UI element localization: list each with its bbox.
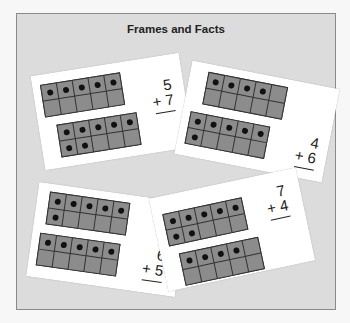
empty-cell [266, 101, 284, 119]
empty-cell [248, 140, 266, 158]
sum-line [142, 279, 162, 283]
counter-dot-cell [58, 123, 75, 140]
counter-dot-cell [65, 195, 82, 212]
empty-cell [110, 217, 127, 234]
counter-dot-cell [73, 121, 90, 138]
empty-cell [201, 131, 219, 149]
counter-dot-cell [73, 78, 90, 95]
ten-frame-top [46, 192, 131, 236]
counter-dot-cell [60, 139, 77, 156]
panel-title: Frames and Facts [17, 23, 335, 35]
counter-dot-cell [204, 115, 222, 133]
empty-cell [215, 260, 233, 278]
empty-cell [37, 250, 54, 267]
counter-dot-cell [81, 197, 98, 214]
empty-cell [229, 214, 247, 232]
empty-cell [235, 95, 253, 113]
empty-cell [230, 257, 248, 275]
counter-dot-cell [104, 73, 121, 90]
counter-dot-cell [112, 202, 129, 219]
empty-cell [100, 259, 117, 276]
empty-cell [62, 211, 79, 228]
sum-line [294, 166, 314, 171]
sum-line [156, 110, 176, 114]
counter-dot-cell [105, 116, 122, 133]
counter-dot-cell [254, 82, 272, 100]
addend-2: + 7 [143, 91, 175, 111]
empty-cell [84, 256, 101, 273]
empty-cell [203, 89, 221, 107]
counter-dot-cell [207, 73, 225, 91]
counter-dot-cell [89, 76, 106, 93]
counter-dot-cell [167, 227, 185, 245]
counter-dot-cell [71, 238, 88, 255]
addition-fact: 5 + 7 [141, 76, 176, 115]
counter-dot-cell [96, 199, 113, 216]
counter-dot-cell [39, 234, 56, 251]
empty-cell [199, 264, 217, 282]
empty-cell [217, 134, 235, 152]
empty-cell [246, 254, 264, 272]
counter-dot-cell [47, 209, 64, 226]
counter-dot-cell [220, 118, 238, 136]
counter-dot-cell [76, 137, 93, 154]
fact-card-2: 4 + 6 [174, 61, 339, 183]
empty-cell [251, 98, 269, 116]
counter-dot-cell [186, 128, 204, 146]
empty-cell [44, 99, 61, 116]
empty-cell [59, 97, 76, 114]
empty-cell [107, 132, 124, 149]
empty-cell [78, 213, 95, 230]
ten-frame-top [40, 72, 125, 117]
counter-dot-cell [121, 113, 138, 130]
empty-cell [107, 89, 124, 106]
empty-cell [75, 94, 92, 111]
addition-fact: 4 + 6 [284, 131, 320, 171]
empty-cell [233, 137, 251, 155]
addition-fact: 7 + 4 [254, 182, 291, 222]
counter-dot-cell [57, 81, 74, 98]
counter-dot-cell [89, 118, 106, 135]
ten-frame-bottom [184, 111, 270, 159]
empty-cell [269, 85, 287, 103]
counter-dot-cell [189, 112, 207, 130]
counter-dot-cell [41, 83, 58, 100]
ten-frame-bottom [179, 237, 265, 286]
empty-cell [94, 215, 111, 232]
counter-dot-cell [222, 76, 240, 94]
ten-frame-top [202, 72, 288, 120]
counter-dot-cell [252, 125, 270, 143]
addend-2: + 6 [285, 145, 317, 165]
counter-dot-cell [49, 193, 66, 210]
ten-frame-top [162, 197, 248, 246]
empty-cell [91, 92, 108, 109]
fact-card-1: 5 + 7 [30, 53, 193, 170]
empty-cell [123, 129, 140, 146]
empty-cell [198, 221, 216, 239]
counter-dot-cell [55, 236, 72, 253]
empty-cell [219, 92, 237, 110]
counter-dot-cell [182, 224, 200, 242]
addend-2: + 5 [132, 259, 164, 278]
counter-dot-cell [238, 79, 256, 97]
empty-cell [53, 252, 70, 269]
counter-dot-cell [87, 240, 104, 257]
sum-line [271, 216, 291, 221]
ten-frame-bottom [56, 112, 141, 157]
ten-frame-bottom [36, 233, 121, 277]
fact-card-4: 7 + 4 [149, 167, 315, 291]
empty-cell [92, 134, 109, 151]
empty-cell [214, 217, 232, 235]
frames-and-facts-panel: Frames and Facts 5 + 7 4 + 6 6 + 5 [16, 13, 336, 310]
empty-cell [183, 267, 201, 285]
counter-dot-cell [102, 243, 119, 260]
counter-dot-cell [236, 122, 254, 140]
empty-cell [69, 254, 86, 271]
